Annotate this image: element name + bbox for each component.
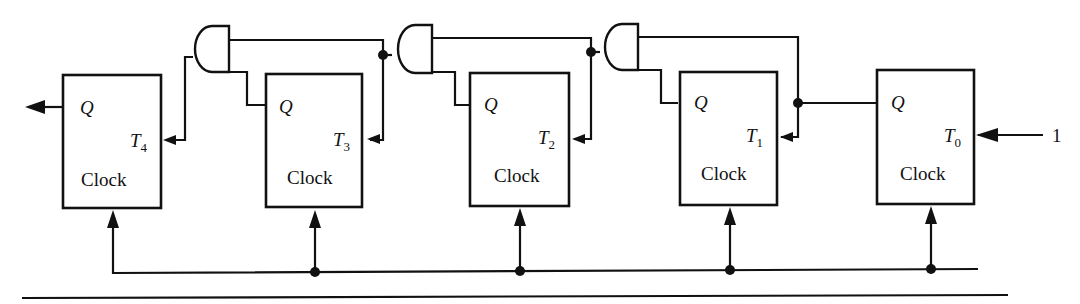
svg-text:Q: Q xyxy=(279,96,293,117)
svg-text:Clock: Clock xyxy=(287,167,333,188)
counter-diagram: Q T4 Clock Q T3 Clock Q T2 Clock Q T1 Cl… xyxy=(0,0,1080,304)
flipflop-t4: Q T4 Clock xyxy=(63,75,161,208)
junction-dot xyxy=(725,265,735,275)
junction-dot xyxy=(515,266,525,276)
junction-dot xyxy=(378,50,388,60)
clock-arrow-icon xyxy=(107,210,119,228)
junction-dot xyxy=(926,264,936,274)
input-arrow-icon xyxy=(976,128,998,142)
flipflop-t3: Q T3 Clock xyxy=(266,74,362,207)
svg-text:Q: Q xyxy=(484,94,498,115)
t-arrow-icon xyxy=(367,134,380,144)
svg-text:Q: Q xyxy=(80,97,94,118)
t-arrow-icon xyxy=(780,132,793,142)
t-arrow-icon xyxy=(572,134,585,144)
clock-arrow-icon xyxy=(514,208,526,226)
flipflop-t1: Q T1 Clock xyxy=(680,72,777,205)
input-label: 1 xyxy=(1052,125,1062,146)
and-gate-icon xyxy=(398,25,432,73)
svg-text:Clock: Clock xyxy=(494,165,540,186)
flipflop-t0: Q T0 Clock xyxy=(877,70,974,204)
svg-text:Q: Q xyxy=(891,92,905,113)
bottom-rule xyxy=(22,295,1008,298)
svg-text:Clock: Clock xyxy=(701,163,747,184)
svg-text:Clock: Clock xyxy=(81,169,127,190)
junction-dot xyxy=(793,98,803,108)
clock-arrow-icon xyxy=(724,207,736,225)
t-arrow-icon xyxy=(163,135,176,145)
output-arrow-icon xyxy=(25,100,45,114)
and-gate-icon xyxy=(195,26,229,72)
clock-arrow-icon xyxy=(925,206,937,224)
junction-dot xyxy=(310,267,320,277)
clock-arrow-icon xyxy=(309,210,321,228)
svg-text:Q: Q xyxy=(694,92,708,113)
and-gate-icon xyxy=(605,24,638,70)
junction-dot xyxy=(586,47,596,57)
flipflop-t2: Q T2 Clock xyxy=(470,73,569,206)
svg-text:Clock: Clock xyxy=(900,163,946,184)
clock-bus xyxy=(107,206,978,277)
